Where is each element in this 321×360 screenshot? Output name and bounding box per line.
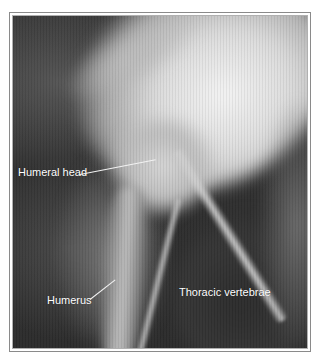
label-humerus: Humerus bbox=[47, 294, 92, 306]
label-thoracic-vertebrae: Thoracic vertebrae bbox=[179, 286, 271, 298]
label-humeral-head: Humeral head bbox=[18, 166, 87, 178]
